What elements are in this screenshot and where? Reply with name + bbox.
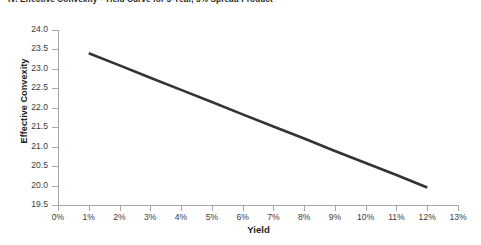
y-tick-mark [52, 166, 58, 167]
y-tick-mark [52, 147, 58, 148]
y-tick-mark [52, 127, 58, 128]
y-tick-mark [52, 49, 58, 50]
x-tick-mark [89, 206, 90, 211]
x-tick-mark [396, 206, 397, 211]
y-tick-mark [52, 30, 58, 31]
chart-title: IV. Effective Convexity - Yield Curve fo… [8, 0, 478, 7]
y-tick-label: 20.0 [6, 180, 48, 190]
y-tick-mark [52, 69, 58, 70]
x-tick-mark [181, 206, 182, 211]
chart-figure: IV. Effective Convexity - Yield Curve fo… [0, 0, 481, 245]
series-line [89, 53, 427, 187]
y-tick-mark [52, 186, 58, 187]
x-tick-mark [427, 206, 428, 211]
x-tick-mark [212, 206, 213, 211]
y-tick-label: 19.5 [6, 199, 48, 209]
y-axis-spine [58, 30, 59, 206]
x-tick-mark [335, 206, 336, 211]
x-tick-mark [366, 206, 367, 211]
x-tick-mark [304, 206, 305, 211]
x-tick-mark [243, 206, 244, 211]
x-tick-mark [150, 206, 151, 211]
x-axis-spine [58, 205, 459, 206]
y-tick-mark [52, 88, 58, 89]
y-axis-title: Effective Convexity [19, 31, 29, 171]
y-tick-mark [52, 108, 58, 109]
x-tick-label: 13% [438, 212, 478, 222]
x-tick-mark [458, 206, 459, 211]
series-line-layer [0, 0, 481, 245]
x-tick-mark [58, 206, 59, 211]
x-axis-title: Yield [58, 224, 459, 235]
x-tick-mark [120, 206, 121, 211]
x-tick-mark [273, 206, 274, 211]
